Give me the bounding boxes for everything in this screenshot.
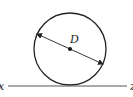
diameter-arrow xyxy=(37,34,70,49)
center-label: D xyxy=(69,33,79,46)
left-label: x xyxy=(0,80,5,93)
center-point xyxy=(68,47,72,51)
circle-diagram: D x z xyxy=(0,0,133,97)
right-label: z xyxy=(129,80,133,93)
diameter-arrow xyxy=(70,49,103,64)
